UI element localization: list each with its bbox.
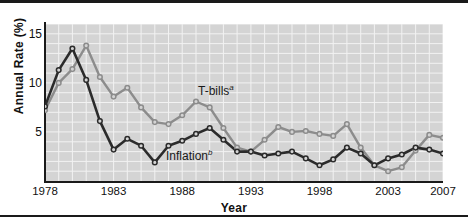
x-tick-label: 1978 bbox=[23, 185, 67, 197]
x-tick-label: 1998 bbox=[298, 185, 342, 197]
series-label-tbills: T-billsa bbox=[198, 83, 234, 98]
y-tick-label: 5 bbox=[4, 126, 42, 138]
x-axis-line bbox=[44, 181, 443, 183]
x-tick-label: 1993 bbox=[229, 185, 273, 197]
x-tick-label: 2007 bbox=[421, 185, 465, 197]
chart-figure: 51015 1978198319881993199820032007 Annua… bbox=[0, 0, 468, 217]
series-label-inflation: Inflationb bbox=[166, 148, 212, 163]
x-tick-label: 1988 bbox=[160, 185, 204, 197]
x-axis-label: Year bbox=[0, 201, 468, 215]
x-tick-label: 1983 bbox=[92, 185, 136, 197]
x-tick-label: 2003 bbox=[366, 185, 410, 197]
y-axis-label: Annual Rate (%) bbox=[12, 11, 26, 121]
series-layer bbox=[45, 24, 443, 181]
